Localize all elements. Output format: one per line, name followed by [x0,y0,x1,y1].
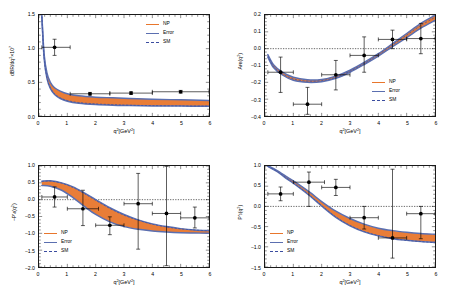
y-tick-label: −0.5 [14,213,35,219]
data-point [378,30,406,49]
legend-key-error [372,91,385,92]
legend-p4-prime: NP Error SM [44,229,106,256]
legend-key-error [44,242,57,243]
legend-row-sm: SM [372,96,434,105]
data-point [110,91,153,95]
x-tick-label: 3 [342,120,358,126]
legend-key-sm [270,251,283,252]
y-tick-label: 0.0 [240,203,261,209]
legend-row-sm: SM [44,247,106,256]
x-axis-label-p4-prime: q2[GeV2] [38,279,210,285]
legend-label-error: Error [163,30,174,35]
x-tick-label: 1 [285,271,301,277]
legend-label-sm: SM [287,248,294,253]
x-tick-label: 5 [399,120,415,126]
legend-row-np: NP [270,229,332,238]
x-tick-label: 4 [145,120,161,126]
data-point [322,60,350,89]
legend-row-error: Error [270,238,332,247]
data-point [268,187,294,201]
y-tick-label: 0.5 [240,182,261,188]
legend-key-sm [372,100,385,101]
data-point [124,173,152,249]
legend-row-np: NP [44,229,106,238]
data-point [322,179,350,195]
x-tick-label: 3 [116,120,132,126]
legend-key-error [270,242,283,243]
x-tick-label: 6 [202,120,218,126]
data-point [181,207,209,228]
panel-p4-prime: −P'4(q2) q2[GeV2] −2.0−1.5−1.0−0.50.00.5… [0,153,225,305]
x-tick-label: 6 [202,271,218,277]
x-tick-label: 1 [285,120,301,126]
legend-branching-ratio: NP Error SM [146,20,208,47]
data-point [407,23,435,53]
legend-row-error: Error [372,87,434,96]
y-axis-label-branching-ratio: dBR/dq2×107 [9,23,15,99]
y-tick-label: −0.2 [240,79,261,85]
x-tick-label: 0 [256,271,272,277]
data-point [378,169,406,258]
x-tick-label: 3 [116,271,132,277]
legend-row-error: Error [146,29,208,38]
x-tick-label: 6 [428,271,444,277]
y-tick-label: −0.3 [240,97,261,103]
x-tick-label: 1 [59,120,75,126]
legend-label-np: NP [61,230,68,235]
panel-branching-ratio: dBR/dq2×107 q2[GeV2] 0.00.51.01.5 012345… [0,2,225,152]
y-tick-label: 1.0 [240,162,261,168]
legend-label-error: Error [389,88,400,93]
legend-label-sm: SM [61,248,68,253]
panel-forward-backward-asymmetry: AFB(q2) q2[GeV2] −0.4−0.3−0.2−0.10.00.10… [226,2,451,152]
legend-key-np [44,233,57,234]
x-tick-label: 0 [256,120,272,126]
data-point [152,166,180,265]
legend-row-np: NP [146,20,208,29]
legend-label-sm: SM [163,39,170,44]
y-tick-label: 0.2 [240,11,261,17]
y-tick-label: −1.0 [14,230,35,236]
x-tick-label: 4 [145,271,161,277]
legend-forward-backward-asymmetry: NP Error SM [372,78,434,105]
legend-label-error: Error [61,239,72,244]
x-tick-label: 1 [59,271,75,277]
y-tick-label: 0.0 [14,196,35,202]
x-axis-label-p5-prime: q2[GeV2] [264,279,436,285]
legend-p5-prime: NP Error SM [270,229,332,256]
x-tick-label: 2 [87,120,103,126]
y-tick-label: 1.0 [14,162,35,168]
legend-key-np [146,24,159,25]
x-tick-label: 4 [371,271,387,277]
legend-label-np: NP [163,21,170,26]
y-tick-label: 1.5 [14,11,35,17]
x-axis-label-forward-backward-asymmetry: q2[GeV2] [264,128,436,134]
legend-key-sm [44,251,57,252]
y-tick-label: 0.1 [240,28,261,34]
x-tick-label: 2 [313,271,329,277]
x-tick-label: 2 [313,120,329,126]
legend-row-error: Error [44,238,106,247]
y-tick-label: 1.0 [14,45,35,51]
legend-key-error [146,33,159,34]
y-tick-label: −0.5 [240,224,261,230]
legend-key-sm [146,42,159,43]
legend-key-np [372,82,385,83]
legend-label-error: Error [287,239,298,244]
x-tick-label: 5 [173,120,189,126]
y-tick-label: 0.5 [14,79,35,85]
y-tick-label: −1.0 [240,244,261,250]
x-tick-label: 5 [173,271,189,277]
y-tick-label: 0.0 [240,45,261,51]
data-point [350,37,378,72]
x-tick-label: 4 [371,120,387,126]
x-tick-label: 5 [399,271,415,277]
y-tick-label: 0.5 [14,179,35,185]
legend-row-sm: SM [270,247,332,256]
legend-row-sm: SM [146,38,208,47]
x-tick-label: 2 [87,271,103,277]
data-point [42,39,70,55]
data-point [293,87,321,114]
legend-label-np: NP [389,79,396,84]
panel-p5-prime: P'5(q2) q2[GeV2] −1.5−1.0−0.50.00.51.0 0… [226,153,451,305]
figure-root: dBR/dq2×107 q2[GeV2] 0.00.51.01.5 012345… [0,0,451,305]
